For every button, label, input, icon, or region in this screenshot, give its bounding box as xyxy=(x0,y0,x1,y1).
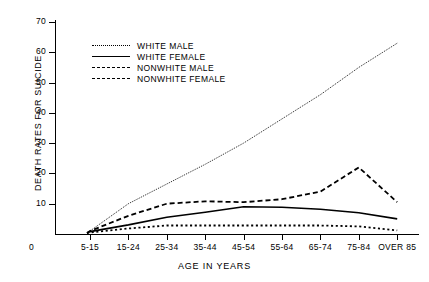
plot-area xyxy=(0,0,429,282)
series-line-white-female xyxy=(87,207,397,233)
suicide-death-rates-line-chart: DEATH RATES FOR SUICIDE AGE IN YEARS 102… xyxy=(0,0,429,282)
series-line-nonwhite-female xyxy=(87,226,397,234)
series-line-white-male xyxy=(87,43,397,233)
